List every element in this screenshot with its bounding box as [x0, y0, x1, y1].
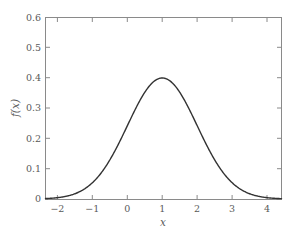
x-axis-title: x: [160, 216, 166, 228]
x-tick-label-6: 4: [264, 203, 270, 214]
y-tick-label-1: 0.1: [26, 163, 41, 174]
y-axis-title: f(x): [9, 99, 21, 118]
y-tick-label-5: 0.5: [26, 42, 41, 53]
x-tick-label-4: 2: [194, 203, 200, 214]
y-tick-label-0: 0: [35, 193, 41, 204]
x-tick-label-1: −1: [85, 203, 99, 214]
x-tick-label-3: 1: [159, 203, 165, 214]
figure-background: [0, 0, 293, 239]
x-tick-label-2: 0: [124, 203, 130, 214]
gaussian-pdf-chart: 0 0.1 0.2 0.3 0.4 0.5 0.6 −2 −1 0 1 2 3 …: [0, 0, 293, 239]
y-tick-label-2: 0.2: [26, 133, 41, 144]
figure-container: 0 0.1 0.2 0.3 0.4 0.5 0.6 −2 −1 0 1 2 3 …: [0, 0, 293, 239]
y-tick-label-4: 0.4: [26, 72, 41, 83]
y-tick-label-3: 0.3: [26, 102, 41, 113]
x-tick-label-0: −2: [50, 203, 64, 214]
y-tick-label-6: 0.6: [26, 12, 41, 23]
x-tick-label-5: 3: [229, 203, 235, 214]
